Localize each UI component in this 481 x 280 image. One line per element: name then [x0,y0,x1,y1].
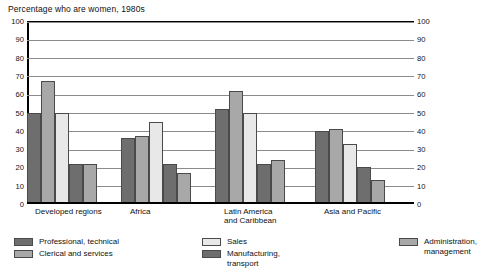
chart-title: Percentage who are women, 1980s [8,4,145,14]
bar [257,164,271,204]
legend-item: Clerical and services [14,249,164,259]
legend-swatch [14,238,33,246]
legend-item: Sales [202,237,362,247]
bar [329,129,343,204]
bar [149,122,163,204]
y-axis-tick-right: 70 [417,73,425,81]
legend-swatch [14,250,33,258]
bar [135,136,149,204]
bar [243,113,257,205]
y-axis-tick-right: 20 [417,164,425,172]
category-label: Developed regions [35,207,102,216]
bar [229,91,243,204]
y-axis-tick-left: 50 [16,110,24,118]
y-axis-tick-right: 10 [417,183,425,191]
y-axis-tick-left: 20 [16,164,24,172]
bar [315,131,329,204]
y-axis-tick-right: 80 [417,55,425,63]
chart-legend: Professional, technicalClerical and serv… [14,237,434,277]
bar [177,173,191,204]
y-axis-tick-right: 60 [417,91,425,99]
bar [41,81,55,204]
category-label: Africa [130,207,150,216]
legend-item: Administration, management [399,237,481,256]
y-axis-tick-left: 90 [16,36,24,44]
bar [69,164,83,204]
y-axis-tick-left: 0 [20,201,24,209]
legend-column-3: Administration, management [399,237,481,259]
y-axis-tick-left: 70 [16,73,24,81]
category-label: Latin America and Caribbean [224,207,276,226]
bar-group [215,22,315,204]
y-axis-tick-right: 30 [417,146,425,154]
legend-column-2: SalesManufacturing, transport [202,237,362,271]
y-axis-tick-left: 40 [16,128,24,136]
bar [271,160,285,204]
plot-area: 0010102020303040405050606070708080909010… [27,21,414,204]
bar-group [121,22,215,204]
legend-label: Professional, technical [39,237,119,247]
legend-label: Manufacturing, transport [227,249,280,268]
legend-label: Clerical and services [39,249,113,259]
bar-group [27,22,121,204]
x-axis-line [27,202,414,204]
category-labels: Developed regionsAfricaLatin America and… [27,207,414,231]
y-axis-tick-left: 100 [11,18,24,26]
y-axis-tick-left: 80 [16,55,24,63]
bar [27,113,41,205]
category-label: Asia and Pacific [324,207,381,216]
legend-swatch [399,238,418,246]
y-axis-tick-right: 90 [417,36,425,44]
bar [357,167,371,204]
y-axis-tick-right: 100 [417,18,430,26]
legend-label: Administration, management [424,237,477,256]
bar [83,164,97,204]
y-axis-tick-right: 0 [417,201,421,209]
legend-item: Manufacturing, transport [202,249,362,268]
bar [371,180,385,204]
bar [55,113,69,205]
y-axis-tick-left: 60 [16,91,24,99]
bar [215,109,229,204]
y-axis-tick-right: 50 [417,110,425,118]
bar [343,144,357,204]
bar [163,164,177,204]
legend-swatch [202,250,221,258]
bar [121,138,135,204]
legend-column-1: Professional, technicalClerical and serv… [14,237,164,261]
y-axis-tick-left: 10 [16,183,24,191]
y-axis-tick-left: 30 [16,146,24,154]
legend-swatch [202,238,221,246]
bar-groups [27,22,414,204]
bar-group [315,22,414,204]
legend-label: Sales [227,237,247,247]
y-axis-tick-right: 40 [417,128,425,136]
legend-item: Professional, technical [14,237,164,247]
